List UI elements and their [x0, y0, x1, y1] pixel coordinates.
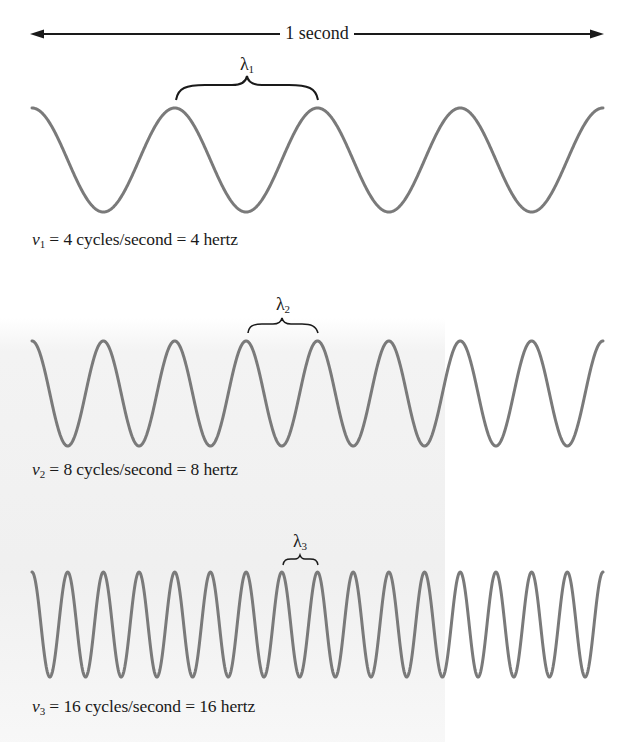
- wavelength-label-2: λ2: [276, 294, 290, 315]
- wave-1-curve: [32, 108, 603, 212]
- lambda-subscript: 2: [285, 303, 291, 315]
- wavelength-brace-3: [283, 555, 318, 565]
- lambda-symbol: λ: [276, 294, 285, 314]
- wave-diagram: [0, 0, 634, 742]
- frequency-caption-2: ν2 = 8 cycles/second = 8 hertz: [32, 459, 238, 480]
- wavelength-brace-2: [248, 318, 318, 333]
- nu-symbol: ν: [32, 229, 40, 249]
- lambda-symbol: λ: [293, 531, 302, 551]
- frequency-text: = 8 cycles/second = 8 hertz: [45, 459, 238, 479]
- wavelength-label-1: λ1: [240, 54, 254, 75]
- wavelength-brace-1: [176, 76, 318, 100]
- duration-label: 1 second: [0, 23, 634, 44]
- nu-symbol: ν: [32, 459, 40, 479]
- frequency-caption-1: ν1 = 4 cycles/second = 4 hertz: [32, 229, 238, 250]
- wave-3-curve: [32, 572, 603, 677]
- nu-symbol: ν: [32, 696, 40, 716]
- frequency-caption-3: ν3 = 16 cycles/second = 16 hertz: [32, 696, 255, 717]
- frequency-text: = 4 cycles/second = 4 hertz: [45, 229, 238, 249]
- duration-text: 1 second: [280, 23, 353, 43]
- lambda-symbol: λ: [240, 54, 249, 74]
- lambda-subscript: 1: [249, 63, 255, 75]
- wave-2-curve: [32, 341, 603, 446]
- wavelength-label-3: λ3: [293, 531, 307, 552]
- lambda-subscript: 3: [302, 540, 308, 552]
- frequency-text: = 16 cycles/second = 16 hertz: [45, 696, 255, 716]
